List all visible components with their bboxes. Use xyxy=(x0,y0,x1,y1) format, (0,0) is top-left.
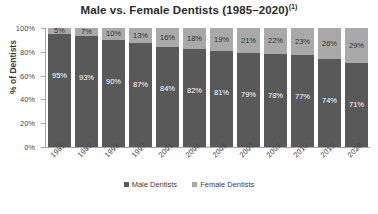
bar-stack[interactable]: 23%77% xyxy=(291,28,313,147)
bar-segment-female[interactable]: 26% xyxy=(318,28,340,59)
bar-stack[interactable]: 18%82% xyxy=(183,28,205,147)
bar-slot: 26%74% xyxy=(316,28,343,147)
bar-segment-female[interactable]: 16% xyxy=(156,28,178,47)
bar-segment-male[interactable]: 78% xyxy=(264,54,286,147)
bar-segment-female[interactable]: 22% xyxy=(264,28,286,54)
legend-swatch-male-icon xyxy=(124,182,129,187)
bar-segment-label-female: 18% xyxy=(187,35,202,43)
bar-slot: 22%78% xyxy=(262,28,289,147)
bar-segment-label-male: 74% xyxy=(322,97,337,105)
bar-segment-male[interactable]: 84% xyxy=(156,47,178,147)
bar-segment-female[interactable]: 23% xyxy=(291,28,313,55)
chart-title: Male vs. Female Dentists (1985–2020)(1) xyxy=(0,3,378,16)
legend-label: Male Dentists xyxy=(132,180,177,189)
bar-slot: 21%79% xyxy=(235,28,262,147)
bar-segment-male[interactable]: 74% xyxy=(318,59,340,147)
bar-segment-female[interactable]: 10% xyxy=(102,28,124,40)
x-axis-label-cell: 2001 xyxy=(154,151,181,181)
bar-segment-label-female: 16% xyxy=(160,34,175,42)
bar-segment-label-male: 79% xyxy=(241,91,256,99)
bar-slot: 29%71% xyxy=(343,28,370,147)
bar-stack[interactable]: 5%95% xyxy=(48,28,70,147)
bar-slot: 19%81% xyxy=(208,28,235,147)
x-axis-tick-labels: 1985198919931997200120032005200720092010… xyxy=(46,151,370,181)
bar-segment-male[interactable]: 95% xyxy=(48,34,70,147)
chart-legend: Male DentistsFemale Dentists xyxy=(0,180,378,189)
bar-segment-female[interactable]: 18% xyxy=(183,28,205,49)
bar-segment-female[interactable]: 19% xyxy=(210,28,232,51)
bar-segment-label-male: 71% xyxy=(349,101,364,109)
bar-segment-male[interactable]: 77% xyxy=(291,55,313,147)
bar-segment-male[interactable]: 81% xyxy=(210,51,232,147)
bar-segment-label-female: 29% xyxy=(349,42,364,50)
chart-container: Male vs. Female Dentists (1985–2020)(1) … xyxy=(0,0,378,214)
chart-title-footnote-marker: (1) xyxy=(289,3,298,10)
bar-segment-female[interactable]: 13% xyxy=(129,28,151,43)
legend-swatch-female-icon xyxy=(192,182,197,187)
bar-segment-male[interactable]: 90% xyxy=(102,40,124,147)
bar-segment-male[interactable]: 93% xyxy=(75,36,97,147)
bar-slot: 16%84% xyxy=(154,28,181,147)
bar-stack[interactable]: 16%84% xyxy=(156,28,178,147)
y-axis-tick-label: 0% xyxy=(24,143,35,152)
bar-slot: 13%87% xyxy=(127,28,154,147)
bar-segment-female[interactable]: 21% xyxy=(237,28,259,53)
bar-stack[interactable]: 26%74% xyxy=(318,28,340,147)
x-axis-label-cell: 2015 xyxy=(316,151,343,181)
bar-stack[interactable]: 10%90% xyxy=(102,28,124,147)
bar-segment-label-female: 26% xyxy=(322,40,337,48)
y-axis-tick-label: 80% xyxy=(20,47,35,56)
bar-segment-label-female: 10% xyxy=(106,30,121,38)
y-axis-tick-label: 100% xyxy=(16,24,35,33)
bar-slot: 23%77% xyxy=(289,28,316,147)
bar-slot: 10%90% xyxy=(100,28,127,147)
bar-slot: 18%82% xyxy=(181,28,208,147)
bar-segment-female[interactable]: 7% xyxy=(75,28,97,36)
bar-segment-label-male: 93% xyxy=(79,74,94,82)
x-axis-label-cell: 2005 xyxy=(208,151,235,181)
bar-stack[interactable]: 22%78% xyxy=(264,28,286,147)
bar-stack[interactable]: 29%71% xyxy=(345,28,367,147)
bar-stack[interactable]: 13%87% xyxy=(129,28,151,147)
bar-stack[interactable]: 19%81% xyxy=(210,28,232,147)
bar-segment-label-male: 77% xyxy=(295,93,310,101)
legend-item-male[interactable]: Male Dentists xyxy=(124,180,177,189)
x-axis-label-cell: 2003 xyxy=(181,151,208,181)
chart-title-text: Male vs. Female Dentists (1985–2020) xyxy=(80,4,288,16)
bar-segment-label-female: 21% xyxy=(241,37,256,45)
bar-segment-male[interactable]: 82% xyxy=(183,49,205,147)
bar-segment-male[interactable]: 79% xyxy=(237,53,259,147)
x-axis-label-cell: 2009 xyxy=(262,151,289,181)
x-axis-label-cell: 1985 xyxy=(46,151,73,181)
bar-segment-label-male: 78% xyxy=(268,92,283,100)
bar-segment-label-male: 81% xyxy=(214,89,229,97)
x-axis-label-cell: 1997 xyxy=(127,151,154,181)
bar-segment-label-female: 22% xyxy=(268,37,283,45)
x-axis-label-cell: 2010 xyxy=(289,151,316,181)
x-axis-label-cell: 1989 xyxy=(73,151,100,181)
bar-segment-label-female: 19% xyxy=(214,36,229,44)
bar-stack[interactable]: 7%93% xyxy=(75,28,97,147)
bars-layer: 5%95%7%93%10%90%13%87%16%84%18%82%19%81%… xyxy=(46,28,370,147)
bar-segment-male[interactable]: 71% xyxy=(345,63,367,147)
y-axis-tick-label: 20% xyxy=(20,119,35,128)
x-axis-label-cell: 2020 xyxy=(343,151,370,181)
bar-segment-label-male: 84% xyxy=(160,85,175,93)
bar-segment-label-female: 13% xyxy=(133,32,148,40)
bar-segment-male[interactable]: 87% xyxy=(129,43,151,147)
legend-label: Female Dentists xyxy=(200,180,254,189)
bar-segment-label-male: 95% xyxy=(52,72,67,80)
bar-segment-label-male: 82% xyxy=(187,87,202,95)
y-axis-tick-label: 60% xyxy=(20,71,35,80)
bar-segment-female[interactable]: 29% xyxy=(345,28,367,63)
bar-segment-label-male: 87% xyxy=(133,81,148,89)
bar-stack[interactable]: 21%79% xyxy=(237,28,259,147)
y-axis-tick-label: 40% xyxy=(20,95,35,104)
bar-slot: 7%93% xyxy=(73,28,100,147)
bar-segment-label-female: 7% xyxy=(81,28,92,36)
x-axis-label-cell: 2007 xyxy=(235,151,262,181)
bar-slot: 5%95% xyxy=(46,28,73,147)
bar-segment-label-male: 90% xyxy=(106,78,121,86)
legend-item-female[interactable]: Female Dentists xyxy=(192,180,254,189)
x-axis-label-cell: 1993 xyxy=(100,151,127,181)
